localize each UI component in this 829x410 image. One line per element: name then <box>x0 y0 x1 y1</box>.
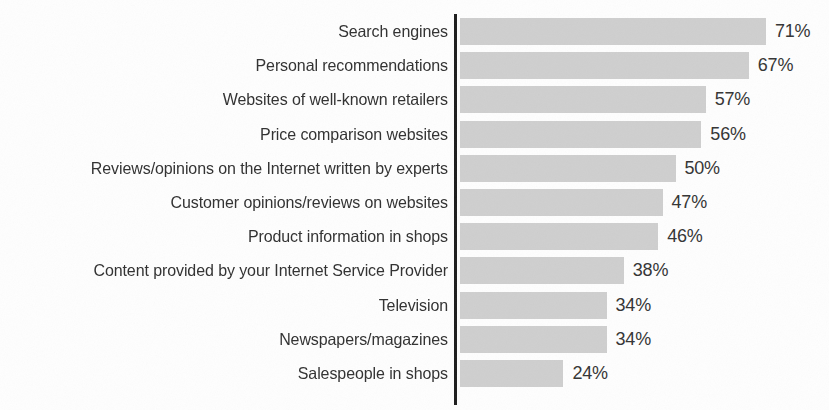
bar-row: Search engines71% <box>0 18 829 45</box>
category-label: Websites of well-known retailers <box>13 86 448 113</box>
bar-row: Websites of well-known retailers57% <box>0 86 829 113</box>
bar-track <box>460 292 607 319</box>
bar-fill <box>460 292 607 319</box>
bar-fill <box>460 326 607 353</box>
bar-row: Newspapers/magazines34% <box>0 326 829 353</box>
bar-row: Price comparison websites56% <box>0 121 829 148</box>
category-label: Newspapers/magazines <box>13 326 448 353</box>
bar-value-label: 50% <box>685 155 720 182</box>
bar-fill <box>460 155 676 182</box>
category-label: Customer opinions/reviews on websites <box>13 189 448 216</box>
bar-value-label: 57% <box>715 86 750 113</box>
bar-fill <box>460 189 663 216</box>
bar-track <box>460 155 676 182</box>
bar-track <box>460 18 766 45</box>
bar-row: Salespeople in shops24% <box>0 360 829 387</box>
bar-fill <box>460 257 624 284</box>
bar-track <box>460 189 663 216</box>
category-label: Product information in shops <box>13 223 448 250</box>
bar-value-label: 47% <box>672 189 707 216</box>
bar-track <box>460 86 706 113</box>
bar-fill <box>460 52 749 79</box>
bar-track <box>460 257 624 284</box>
bar-track <box>460 121 701 148</box>
bar-track <box>460 223 658 250</box>
bar-value-label: 71% <box>775 18 810 45</box>
bar-fill <box>460 121 701 148</box>
bar-row: Content provided by your Internet Servic… <box>0 257 829 284</box>
bar-row: Customer opinions/reviews on websites47% <box>0 189 829 216</box>
bar-fill <box>460 223 658 250</box>
bar-value-label: 34% <box>616 292 651 319</box>
bar-track <box>460 326 607 353</box>
bar-value-label: 67% <box>758 52 793 79</box>
bar-value-label: 38% <box>633 257 668 284</box>
category-label: Price comparison websites <box>13 121 448 148</box>
category-label: Personal recommendations <box>13 52 448 79</box>
bar-track <box>460 360 563 387</box>
horizontal-bar-chart: Search engines71%Personal recommendation… <box>0 0 829 410</box>
value-axis-line <box>454 14 457 405</box>
bar-rows-container: Search engines71%Personal recommendation… <box>0 0 829 410</box>
bar-row: Product information in shops46% <box>0 223 829 250</box>
category-label: Reviews/opinions on the Internet written… <box>13 155 448 182</box>
bar-row: Television34% <box>0 292 829 319</box>
bar-row: Personal recommendations67% <box>0 52 829 79</box>
bar-track <box>460 52 749 79</box>
bar-value-label: 24% <box>572 360 607 387</box>
bar-fill <box>460 360 563 387</box>
bar-fill <box>460 18 766 45</box>
category-label: Content provided by your Internet Servic… <box>13 257 448 284</box>
category-label: Search engines <box>13 18 448 45</box>
category-label: Television <box>13 292 448 319</box>
bar-value-label: 46% <box>667 223 702 250</box>
category-label: Salespeople in shops <box>13 360 448 387</box>
bar-value-label: 56% <box>710 121 745 148</box>
bar-row: Reviews/opinions on the Internet written… <box>0 155 829 182</box>
bar-value-label: 34% <box>616 326 651 353</box>
bar-fill <box>460 86 706 113</box>
